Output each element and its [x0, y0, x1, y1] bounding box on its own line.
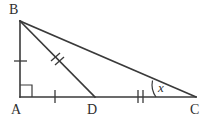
vertex-label-d: D — [87, 102, 97, 117]
vertex-label-a: A — [11, 102, 22, 117]
right-angle-marker-a — [20, 85, 32, 97]
diagram-canvas: B A D C x — [0, 0, 214, 121]
segment-bc — [20, 21, 196, 97]
angle-label-x: x — [157, 80, 164, 95]
vertex-label-c: C — [190, 102, 199, 117]
geometry-diagram: B A D C x — [0, 0, 214, 121]
vertex-label-b: B — [9, 2, 18, 17]
angle-arc-c — [152, 81, 156, 98]
